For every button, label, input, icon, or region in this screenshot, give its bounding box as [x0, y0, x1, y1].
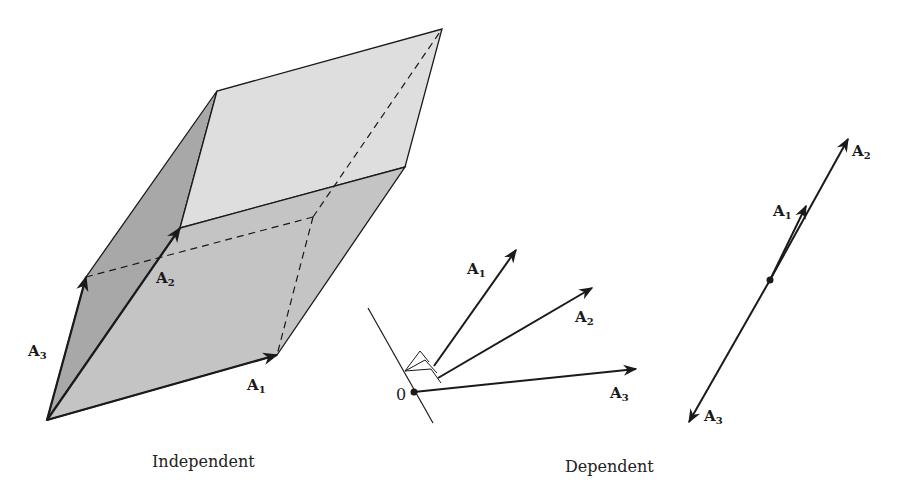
vector-a2 — [438, 288, 592, 378]
label-a1: A1 — [772, 202, 792, 221]
coplanar-vectors: 0 A1 A2 A3 — [368, 250, 636, 423]
label-a1: A1 — [466, 260, 486, 279]
origin-point — [411, 389, 418, 396]
label-a2: A2 — [851, 142, 871, 161]
normal-line — [368, 308, 433, 423]
collinear-vectors: A2 A1 A3 — [689, 139, 871, 426]
diagram-canvas: A1 A2 A3 Independent 0 A1 A2 A3 A2 A1 A3… — [0, 0, 900, 486]
label-a2: A2 — [574, 308, 594, 327]
origin-point — [767, 277, 774, 284]
caption-independent: Independent — [152, 452, 255, 471]
label-a1: A1 — [246, 376, 266, 395]
label-a3: A3 — [609, 384, 629, 403]
vector-a3 — [689, 280, 770, 422]
caption-dependent: Dependent — [565, 457, 654, 476]
label-a3: A3 — [27, 342, 47, 361]
linear-independence-figure: A1 A2 A3 Independent 0 A1 A2 A3 A2 A1 A3… — [0, 0, 900, 486]
label-a3: A3 — [703, 407, 723, 426]
origin-label: 0 — [396, 385, 406, 404]
parallelepiped: A1 A2 A3 — [27, 29, 442, 420]
